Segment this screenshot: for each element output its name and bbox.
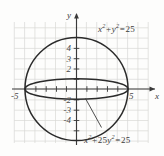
ellipse-eq-rhs: 25 (121, 135, 130, 145)
x-tick-label-5: 5 (129, 92, 139, 101)
y-axis-label: y (67, 11, 71, 20)
y-axis-arrowhead (74, 13, 79, 19)
plot-canvas (0, 0, 164, 156)
ellipse-eq-exp1: 2 (88, 133, 91, 140)
circle-eq-rhs: 25 (126, 24, 135, 34)
circle-equation-label: x2+y2=25 (98, 25, 135, 34)
y-tick-label-3: 3 (60, 55, 71, 64)
x-tick-label-neg5: -5 (11, 92, 25, 101)
y-tick-label-2: 2 (60, 65, 71, 74)
y-tick-label-neg4: -4 (56, 116, 71, 125)
ellipse-eq-coefficient: 25 (98, 135, 107, 145)
y-tick-label-4: 4 (60, 44, 71, 53)
math-figure: 4 3 2 -2 -3 -4 -5 5 y x x2+y2=25 x2+25y2… (0, 0, 164, 156)
x-axis-label: x (155, 92, 159, 101)
ellipse-equation-label: x2+25y2=25 (84, 136, 130, 145)
y-tick-label-neg3: -3 (56, 106, 71, 115)
circle-eq-exp1: 2 (102, 22, 105, 29)
y-tick-label-neg2: -2 (56, 96, 71, 105)
ellipse-leader-line (86, 99, 102, 128)
